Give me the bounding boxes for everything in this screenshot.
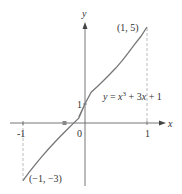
y-axis-arrow-icon [83, 22, 88, 29]
y-axis-label: y [81, 8, 87, 19]
graph: y x -1 0 1 1 (1, 5) (−1, −3) y = x3 + 3x… [0, 0, 182, 194]
tick-label-y1: 1 [77, 99, 82, 110]
root-marker [63, 121, 67, 125]
tick-label-1: 1 [145, 128, 150, 139]
point-label-top: (1, 5) [117, 22, 139, 34]
point-label-bottom: (−1, −3) [29, 173, 62, 185]
tick-label-0: 0 [77, 128, 82, 139]
tick-label-neg1: -1 [17, 128, 25, 139]
equation-label: y = x3 + 3x + 1 [102, 90, 162, 102]
x-axis-arrow-icon [159, 121, 166, 126]
x-axis-label: x [167, 118, 173, 129]
